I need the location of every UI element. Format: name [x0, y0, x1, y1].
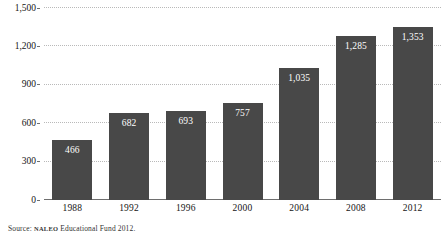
bar-value-label: 682: [109, 118, 149, 128]
y-tick-label: 600: [0, 119, 36, 129]
source-note: Source: NALEO Educational Fund 2012.: [8, 224, 135, 233]
bar-group: 693: [166, 111, 206, 200]
source-organization: NALEO: [34, 225, 58, 232]
y-tick-mark: [37, 161, 40, 162]
y-tick-mark: [37, 84, 40, 85]
source-rest: Educational Fund 2012.: [60, 224, 135, 233]
x-tick-label: 2012: [393, 203, 433, 214]
y-tick-mark: [37, 200, 40, 201]
y-tick-label: 1,200: [0, 42, 36, 52]
bar: [393, 27, 433, 200]
bars-layer: 4666826937571,0351,2851,353: [44, 8, 441, 200]
bar-group: 466: [52, 140, 92, 200]
bar-value-label: 1,035: [279, 73, 319, 83]
bar-group: 757: [223, 103, 263, 200]
bar: [279, 68, 319, 200]
x-tick-label: 2008: [336, 203, 376, 214]
bar-group: 682: [109, 113, 149, 200]
y-tick-label: 0: [0, 196, 36, 206]
x-tick-label: 1992: [109, 203, 149, 214]
source-prefix: Source:: [8, 224, 32, 233]
x-tick-label: 1996: [166, 203, 206, 214]
y-tick-mark: [37, 123, 40, 124]
y-tick-label: 1,500: [0, 4, 36, 14]
y-tick-mark: [37, 46, 40, 47]
x-tick-label: 2004: [279, 203, 319, 214]
y-tick-label: 900: [0, 80, 36, 90]
bar-value-label: 757: [223, 108, 263, 118]
bar: [336, 36, 376, 200]
bar-value-label: 693: [166, 116, 206, 126]
x-tick-label: 2000: [223, 203, 263, 214]
bar-group: 1,353: [393, 27, 433, 200]
bar-group: 1,035: [279, 68, 319, 200]
bar-value-label: 466: [52, 145, 92, 155]
x-tick-label: 1988: [52, 203, 92, 214]
y-axis: 03006009001,2001,500: [0, 8, 40, 200]
bar-value-label: 1,285: [336, 41, 376, 51]
bar-group: 1,285: [336, 36, 376, 200]
x-axis: 1988199219962000200420082012: [44, 203, 441, 217]
y-tick-label: 300: [0, 157, 36, 167]
y-tick-mark: [37, 8, 40, 9]
bar-value-label: 1,353: [393, 32, 433, 42]
bar-chart-figure: 03006009001,2001,500 4666826937571,0351,…: [0, 0, 447, 238]
